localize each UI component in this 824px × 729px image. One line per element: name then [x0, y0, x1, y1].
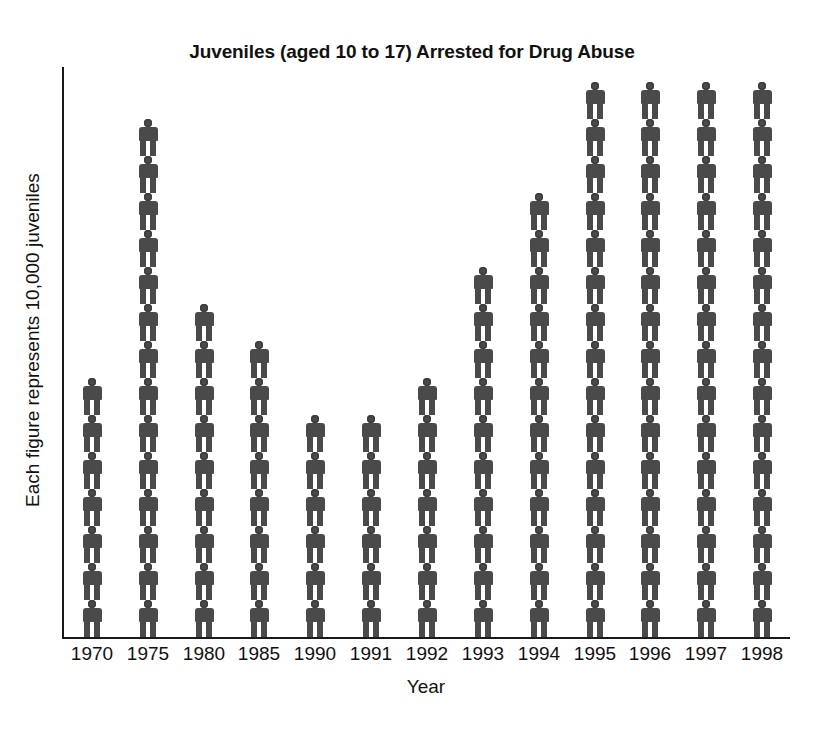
- person-pictogram-icon: [695, 600, 717, 637]
- person-pictogram-icon: [193, 526, 215, 563]
- x-axis-tick-label: 1980: [176, 643, 232, 665]
- person-pictogram-icon: [137, 304, 159, 341]
- person-pictogram-icon: [472, 600, 494, 637]
- person-pictogram-icon: [695, 230, 717, 267]
- person-pictogram-icon: [472, 526, 494, 563]
- person-pictogram-icon: [416, 452, 438, 489]
- person-pictogram-icon: [81, 600, 103, 637]
- person-pictogram-icon: [639, 415, 661, 452]
- person-pictogram-icon: [584, 378, 606, 415]
- person-pictogram-icon: [248, 378, 270, 415]
- person-pictogram-icon: [639, 267, 661, 304]
- person-pictogram-icon: [304, 489, 326, 526]
- pictograph-chart: Juveniles (aged 10 to 17) Arrested for D…: [0, 0, 824, 729]
- person-pictogram-icon: [248, 489, 270, 526]
- person-pictogram-icon: [528, 452, 550, 489]
- x-axis-tick-labels: 1970197519801985199019911992199319941995…: [64, 643, 790, 671]
- person-pictogram-icon: [416, 415, 438, 452]
- person-pictogram-icon: [416, 600, 438, 637]
- person-pictogram-icon: [193, 378, 215, 415]
- person-pictogram-icon: [584, 341, 606, 378]
- person-pictogram-icon: [137, 341, 159, 378]
- person-pictogram-icon: [248, 341, 270, 378]
- person-pictogram-icon: [472, 452, 494, 489]
- person-pictogram-icon: [193, 600, 215, 637]
- pictogram-column: [343, 415, 399, 637]
- person-pictogram-icon: [695, 341, 717, 378]
- person-pictogram-icon: [137, 267, 159, 304]
- pictogram-column: [120, 119, 176, 637]
- person-pictogram-icon: [528, 230, 550, 267]
- person-pictogram-icon: [360, 415, 382, 452]
- person-pictogram-icon: [137, 452, 159, 489]
- person-pictogram-icon: [304, 526, 326, 563]
- person-pictogram-icon: [528, 526, 550, 563]
- person-pictogram-icon: [528, 415, 550, 452]
- person-pictogram-icon: [695, 563, 717, 600]
- person-pictogram-icon: [584, 452, 606, 489]
- x-axis-line: [62, 637, 790, 639]
- person-pictogram-icon: [304, 563, 326, 600]
- person-pictogram-icon: [193, 452, 215, 489]
- person-pictogram-icon: [584, 526, 606, 563]
- person-pictogram-icon: [248, 563, 270, 600]
- chart-title: Juveniles (aged 10 to 17) Arrested for D…: [0, 41, 824, 63]
- person-pictogram-icon: [751, 82, 773, 119]
- person-pictogram-icon: [695, 526, 717, 563]
- person-pictogram-icon: [304, 415, 326, 452]
- x-axis-tick-label: 1970: [64, 643, 120, 665]
- person-pictogram-icon: [584, 230, 606, 267]
- person-pictogram-icon: [528, 267, 550, 304]
- x-axis-tick-label: 1993: [455, 643, 511, 665]
- person-pictogram-icon: [584, 193, 606, 230]
- person-pictogram-icon: [751, 489, 773, 526]
- person-pictogram-icon: [81, 489, 103, 526]
- y-axis-label: Each figure represents 10,000 juveniles: [16, 60, 50, 620]
- pictogram-column: [231, 341, 287, 637]
- person-pictogram-icon: [584, 82, 606, 119]
- person-pictogram-icon: [528, 489, 550, 526]
- pictogram-column: [678, 82, 734, 637]
- person-pictogram-icon: [137, 230, 159, 267]
- x-axis-tick-label: 1992: [399, 643, 455, 665]
- person-pictogram-icon: [584, 304, 606, 341]
- person-pictogram-icon: [695, 378, 717, 415]
- person-pictogram-icon: [584, 600, 606, 637]
- person-pictogram-icon: [695, 489, 717, 526]
- person-pictogram-icon: [193, 489, 215, 526]
- person-pictogram-icon: [193, 304, 215, 341]
- pictogram-column: [511, 193, 567, 637]
- person-pictogram-icon: [81, 526, 103, 563]
- person-pictogram-icon: [248, 415, 270, 452]
- person-pictogram-icon: [193, 563, 215, 600]
- person-pictogram-icon: [137, 526, 159, 563]
- person-pictogram-icon: [584, 267, 606, 304]
- person-pictogram-icon: [416, 563, 438, 600]
- person-pictogram-icon: [528, 193, 550, 230]
- x-axis-tick-label: 1995: [567, 643, 623, 665]
- person-pictogram-icon: [695, 267, 717, 304]
- person-pictogram-icon: [639, 193, 661, 230]
- person-pictogram-icon: [137, 415, 159, 452]
- person-pictogram-icon: [751, 267, 773, 304]
- person-pictogram-icon: [81, 563, 103, 600]
- person-pictogram-icon: [360, 489, 382, 526]
- person-pictogram-icon: [695, 304, 717, 341]
- person-pictogram-icon: [639, 156, 661, 193]
- x-axis-tick-label: 1985: [231, 643, 287, 665]
- person-pictogram-icon: [248, 600, 270, 637]
- person-pictogram-icon: [81, 452, 103, 489]
- person-pictogram-icon: [472, 341, 494, 378]
- person-pictogram-icon: [416, 378, 438, 415]
- x-axis-tick-label: 1991: [343, 643, 399, 665]
- x-axis-tick-label: 1998: [734, 643, 790, 665]
- person-pictogram-icon: [304, 452, 326, 489]
- person-pictogram-icon: [472, 415, 494, 452]
- person-pictogram-icon: [639, 82, 661, 119]
- person-pictogram-icon: [81, 415, 103, 452]
- person-pictogram-icon: [137, 489, 159, 526]
- person-pictogram-icon: [751, 526, 773, 563]
- person-pictogram-icon: [360, 526, 382, 563]
- person-pictogram-icon: [639, 489, 661, 526]
- person-pictogram-icon: [751, 119, 773, 156]
